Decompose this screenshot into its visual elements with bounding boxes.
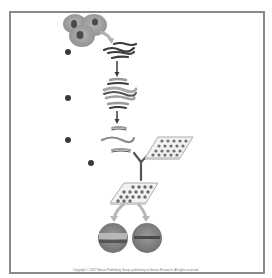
result-spot-left xyxy=(98,223,128,253)
workflow-diagram xyxy=(0,0,272,278)
step-marker-b xyxy=(65,95,71,101)
step-marker-a xyxy=(65,49,71,55)
step-marker-d xyxy=(88,160,94,166)
strands-step-b xyxy=(104,79,136,108)
arrow-down-icon xyxy=(115,111,120,124)
strands-step-a xyxy=(104,43,136,58)
copyright-text: Copyright © 2007 Nature Publishing Group… xyxy=(0,268,272,272)
arrow-down-icon xyxy=(115,61,120,77)
split-arrows-icon xyxy=(114,204,146,218)
result-spot-right xyxy=(132,223,162,253)
hybridized-plate-icon xyxy=(110,183,158,205)
cells-icon xyxy=(63,14,107,47)
step-marker-c xyxy=(65,137,71,143)
strands-step-c xyxy=(102,127,134,152)
microarray-plate-icon xyxy=(145,137,193,160)
